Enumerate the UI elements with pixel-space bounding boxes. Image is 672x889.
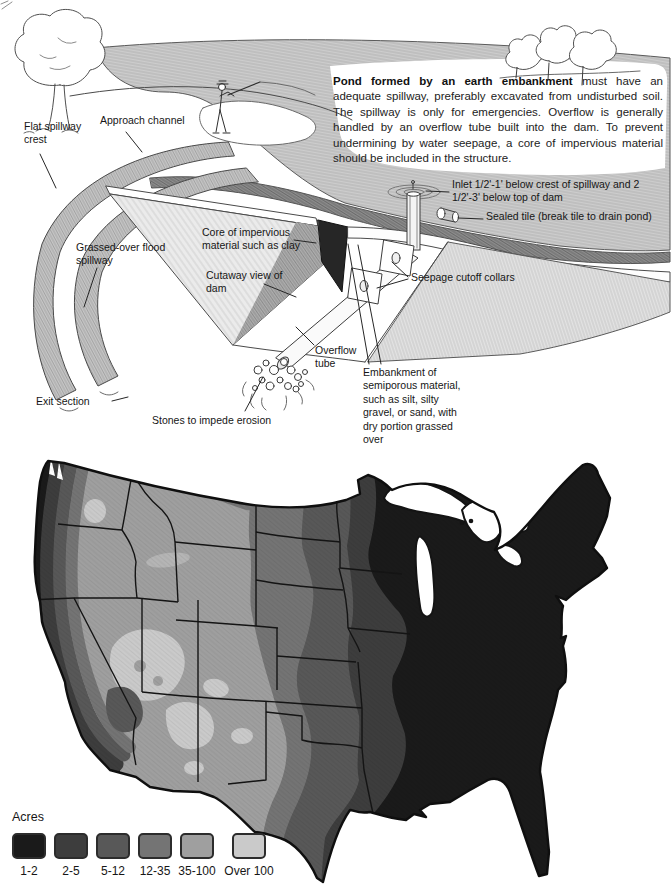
legend-label: 2-5 bbox=[50, 864, 92, 878]
label-approach-channel: Approach channel bbox=[100, 114, 185, 127]
label-embankment: Embankment of semiporous material, such … bbox=[363, 366, 469, 447]
legend-label: 35-100 bbox=[176, 864, 218, 878]
legend-swatch-2-5 bbox=[54, 833, 88, 859]
label-grassed-over-flood-spillway: Grassed-over flood spillway bbox=[76, 241, 168, 268]
legend-label: 5-12 bbox=[92, 864, 134, 878]
label-stones: Stones to impede erosion bbox=[152, 414, 271, 427]
figure-caption: Pond formed by an earth embankment must … bbox=[333, 74, 663, 166]
legend-title: Acres bbox=[12, 810, 280, 824]
legend-item: 1-2 bbox=[8, 833, 50, 878]
label-seepage-collars: Seepage cutoff collars bbox=[411, 271, 515, 284]
legend-label: 1-2 bbox=[8, 864, 50, 878]
legend-swatch-35-100 bbox=[180, 833, 214, 859]
legend-swatch-5-12 bbox=[96, 833, 130, 859]
label-core-of-impervious: Core of impervious material such as clay bbox=[202, 226, 320, 253]
label-inlet: Inlet 1/2'-1' below crest of spillway an… bbox=[452, 178, 670, 205]
label-cutaway-view: Cutaway view of dam bbox=[206, 269, 290, 296]
map-legend: Acres 1-2 2-5 5-12 12-35 35-100 bbox=[8, 810, 280, 878]
scanned-book-page: Pond formed by an earth embankment must … bbox=[0, 0, 672, 889]
label-sealed-tile: Sealed tile (break tile to drain pond) bbox=[486, 210, 652, 223]
impervious-core bbox=[318, 220, 348, 292]
legend-item: 2-5 bbox=[50, 833, 92, 878]
legend-swatch-over-100 bbox=[232, 833, 266, 859]
label-flat-spillway-crest: Flat spillway crest bbox=[24, 120, 104, 147]
legend-row: 1-2 2-5 5-12 12-35 35-100 Over 100 bbox=[8, 833, 280, 878]
legend-item: 5-12 bbox=[92, 833, 134, 878]
legend-swatch-12-35 bbox=[138, 833, 172, 859]
legend-swatch-1-2 bbox=[12, 833, 46, 859]
pond-illustration bbox=[0, 0, 672, 450]
legend-label: 12-35 bbox=[134, 864, 176, 878]
caption-body: must have an adequate spillway, preferab… bbox=[333, 75, 663, 164]
legend-item: 12-35 bbox=[134, 833, 176, 878]
scan-corner-mark bbox=[1, 1, 12, 9]
caption-lead: Pond formed by an earth embankment bbox=[333, 75, 573, 87]
legend-item: 35-100 bbox=[176, 833, 218, 878]
label-exit-section: Exit section bbox=[36, 395, 90, 408]
legend-item: Over 100 bbox=[218, 833, 280, 878]
legend-label: Over 100 bbox=[218, 864, 280, 878]
label-overflow-tube: Overflow tube bbox=[315, 344, 367, 371]
large-tree bbox=[15, 9, 105, 133]
